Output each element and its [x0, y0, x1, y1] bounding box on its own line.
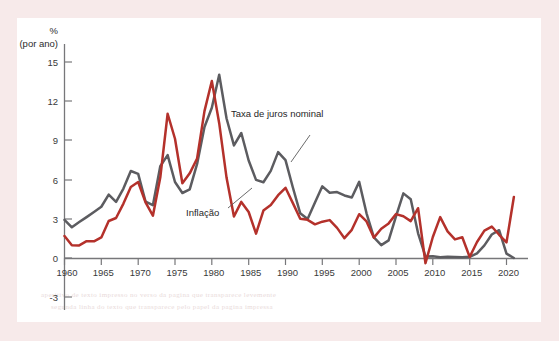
x-tick-label-2000: 2000 — [351, 267, 372, 278]
y-tick-label-9: 9 — [53, 135, 58, 146]
y-tick-label-3: 3 — [53, 214, 58, 225]
x-tick-label-1965: 1965 — [93, 267, 114, 278]
y-tick-label-6: 6 — [53, 175, 58, 186]
x-tick-label-2005: 2005 — [387, 267, 408, 278]
y-tick-label-15: 15 — [47, 57, 58, 68]
x-tick-label-1970: 1970 — [130, 267, 151, 278]
x-tick-label-1975: 1975 — [166, 267, 187, 278]
annotation-nominal-rate: Taxa de juros nominal — [231, 108, 323, 119]
x-tick-label-2015: 2015 — [461, 267, 482, 278]
y-tick-label-12: 12 — [47, 96, 58, 107]
line-chart: 15 12 9 6 3 0 -3 % (por ano) 1960 1965 — [0, 0, 559, 341]
y-axis-unit-percent: % — [50, 25, 59, 36]
annotation-inflation: Inflação — [186, 207, 219, 218]
y-axis-ticks — [65, 62, 73, 297]
y-tick-label-0: 0 — [53, 253, 58, 264]
x-tick-label-1995: 1995 — [314, 267, 335, 278]
x-tick-label-1980: 1980 — [203, 267, 224, 278]
x-tick-label-2020: 2020 — [498, 267, 519, 278]
x-tick-label-1985: 1985 — [240, 267, 261, 278]
x-tick-label-2010: 2010 — [424, 267, 445, 278]
y-tick-label-neg3: -3 — [50, 292, 58, 303]
x-tick-label-1990: 1990 — [277, 267, 298, 278]
y-axis-unit-per-year: (por ano) — [19, 38, 58, 49]
leader-line-nominal-rate — [291, 135, 310, 162]
figure-container: aperitivo de texto impresso no verso da … — [0, 0, 559, 341]
x-tick-label-1960: 1960 — [56, 267, 77, 278]
